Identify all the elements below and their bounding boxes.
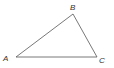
vertex-label-b: B [70, 3, 76, 12]
vertex-label-a: A [2, 54, 8, 63]
triangle-abc [16, 14, 97, 57]
vertex-label-c: C [99, 56, 105, 65]
triangle-diagram: A B C [0, 0, 114, 68]
